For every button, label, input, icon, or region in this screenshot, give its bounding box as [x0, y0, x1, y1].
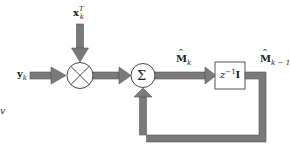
arrow-y-to-multiplier [30, 67, 66, 84]
arrow-x-to-multiplier [72, 24, 89, 62]
m-hat-km1-hat: ^ [262, 48, 268, 55]
label-y: yk [17, 69, 27, 79]
arrow-multiplier-to-summer [93, 67, 131, 84]
label-x-transpose: xTk [73, 8, 88, 18]
x-subscript: k [80, 13, 84, 21]
feedback-path [134, 72, 266, 142]
arrow-summer-to-delay [155, 67, 216, 84]
delay-identity: I [236, 69, 241, 80]
multiplier-node [67, 63, 93, 89]
y-symbol: y [17, 68, 23, 79]
m-hat-km1-subscript: k − 1 [271, 59, 290, 67]
label-delay: z−1I [220, 70, 240, 80]
label-m-hat-k: ^ Mk [176, 54, 191, 64]
delay-exponent: −1 [225, 68, 235, 76]
block-diagram: xTk yk Σ z−1I ^ Mk ^ Mk − 1 v [0, 0, 290, 148]
m-hat-k-hat: ^ [178, 48, 184, 55]
x-superscript: T [79, 5, 84, 13]
m-hat-k-subscript: k [187, 59, 191, 67]
label-m-hat-k-minus-1: ^ Mk − 1 [260, 54, 290, 64]
stray-text: v [0, 107, 5, 116]
y-subscript: k [23, 74, 27, 82]
summer-sigma: Σ [137, 69, 146, 82]
